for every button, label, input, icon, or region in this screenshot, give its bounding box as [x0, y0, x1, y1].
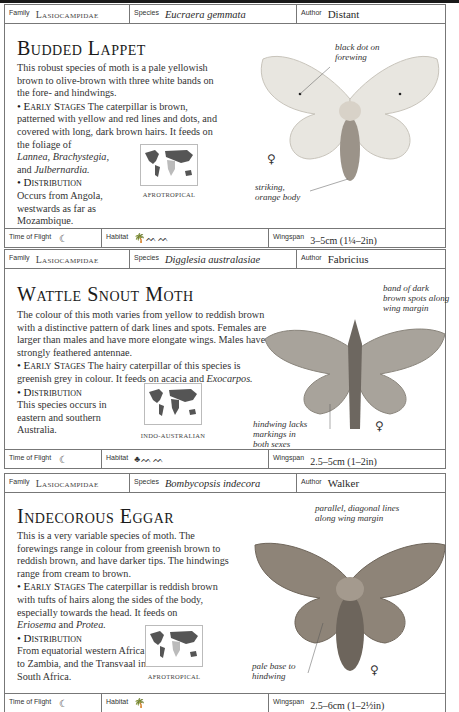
world-map-icon — [145, 384, 201, 424]
entry-body: Indecorous Eggar This is a very variable… — [4, 493, 446, 693]
annotation-black-dot: black dot on forewing — [335, 42, 405, 62]
annotation-band-dark-spots: band of dark brown spots along wing marg… — [383, 283, 453, 313]
species-title: Indecorous Eggar — [17, 505, 174, 528]
species-label: Species — [134, 9, 159, 16]
palm-tree-icon: 🌴 — [134, 233, 146, 243]
entry-header: Family Lasiocampidae Species Digglesia a… — [4, 249, 446, 269]
author-cell: Author Walker — [297, 474, 445, 492]
world-map-icon — [141, 145, 197, 185]
entry-footer: Time of Flight ☾ Habitat 🌴 ᨓᨓ Wingspan 3… — [4, 228, 446, 248]
time-of-flight-cell: Time of Flight ☾ — [5, 694, 102, 712]
annotation-parallel-lines: parallel, diagonal lines along wing marg… — [315, 503, 400, 523]
family-cell: Family Lasiocampidae — [5, 474, 130, 492]
species-title: Wattle Snout Moth — [17, 283, 194, 306]
description-text: The colour of this moth varies from yell… — [17, 309, 267, 437]
region-caption: AFROTROPICAL — [129, 191, 209, 198]
annotation-hindwing-lacks-markings: hindwing lacks markings in both sexes — [253, 419, 313, 449]
wingspan-cell: Wingspan 2.5–5cm (1–2in) — [269, 450, 445, 468]
entry-footer: Time of Flight ☾ Habitat ♣ ᨓᨓ Wingspan 2… — [4, 449, 446, 469]
family-label: Family — [9, 9, 30, 16]
palm-tree-icon: 🌴 — [134, 698, 146, 708]
description-text: This is a very variable species of moth.… — [17, 530, 237, 683]
intro-text: The colour of this moth varies from yell… — [17, 309, 266, 358]
distribution-heading: • Distribution — [17, 386, 82, 398]
species-value: Eucraera gemmata — [165, 9, 246, 20]
distribution-heading: • Distribution — [17, 176, 82, 188]
intro-text: This is a very variable species of moth.… — [17, 530, 229, 579]
species-entry-wattle-snout-moth: Family Lasiocampidae Species Digglesia a… — [4, 249, 446, 469]
grassland-icon: ᨓᨓ — [141, 454, 165, 465]
female-symbol: ♀ — [267, 152, 276, 166]
species-value: Digglesia australasiae — [165, 254, 260, 265]
wingspan-cell: Wingspan 2.5–6cm (1–2½in) — [269, 694, 445, 712]
distribution-text: Occurs from Angola, westwards as far as … — [17, 190, 107, 228]
world-map-icon — [146, 626, 202, 666]
time-of-flight-cell: Time of Flight ☾ — [5, 450, 102, 468]
distribution-heading: • Distribution — [17, 632, 82, 644]
family-cell: Family Lasiocampidae — [5, 250, 130, 268]
habitat-cell: Habitat ♣ ᨓᨓ — [102, 450, 269, 468]
author-value: Walker — [328, 477, 360, 489]
distribution-text: From equatorial western Africa to Zambia… — [17, 645, 147, 683]
world-map-indo-australian — [144, 383, 202, 425]
crescent-moon-icon: ☾ — [59, 454, 68, 465]
species-title: Budded Lappet — [17, 37, 146, 60]
entry-header: Family Lasiocampidae Species Bombycopsis… — [4, 473, 446, 493]
author-value: Fabricius — [328, 253, 369, 265]
wingspan-value: 3–5cm (1¼–2in) — [310, 235, 377, 246]
region-caption: INDO-AUSTRALIAN — [133, 432, 213, 439]
entry-body: Budded Lappet This robust species of mot… — [4, 24, 446, 228]
habitat-cell: Habitat 🌴 — [102, 694, 269, 712]
family-value: Lasiocampidae — [36, 9, 99, 20]
distribution-text: This species occurs in eastern and south… — [17, 399, 107, 437]
family-value: Lasiocampidae — [36, 254, 99, 265]
page-top-rule — [0, 0, 459, 3]
world-map-afrotropical — [140, 144, 198, 186]
species-cell: Species Bombycopsis indecora — [130, 474, 297, 492]
author-cell: Author Fabricius — [297, 250, 445, 268]
early-stages-heading: • Early Stages — [17, 580, 85, 592]
food-plants: Exocarpos. — [207, 373, 253, 384]
annotation-pale-base: pale base to hindwing — [252, 661, 307, 681]
entry-header: Family Lasiocampidae Species Eucraera ge… — [4, 4, 446, 24]
wingspan-value: 2.5–6cm (1–2½in) — [310, 700, 384, 711]
wingspan-value: 2.5–5cm (1–2in) — [310, 456, 377, 467]
entry-footer: Time of Flight ☾ Habitat 🌴 Wingspan 2.5–… — [4, 693, 446, 712]
female-symbol: ♀ — [375, 419, 384, 433]
early-stages-heading: • Early Stages — [17, 359, 85, 371]
early-stages-heading: • Early Stages — [17, 100, 85, 112]
food-plants: Lannea, Brachystegia, — [17, 151, 109, 162]
female-symbol: ♀ — [370, 663, 379, 677]
entry-body: Wattle Snout Moth The colour of this mot… — [4, 269, 446, 449]
author-label: Author — [301, 9, 322, 16]
crescent-moon-icon: ☾ — [59, 698, 68, 709]
species-entry-budded-lappet: Family Lasiocampidae Species Eucraera ge… — [4, 4, 446, 248]
species-entry-indecorous-eggar: Family Lasiocampidae Species Bombycopsis… — [4, 473, 446, 712]
wingspan-cell: Wingspan 3–5cm (1¼–2in) — [269, 229, 445, 247]
time-of-flight-cell: Time of Flight ☾ — [5, 229, 102, 247]
food-plants: Eriosema — [17, 619, 56, 630]
region-caption: AFROTROPICAL — [134, 673, 214, 680]
author-cell: Author Distant — [297, 5, 445, 23]
grassland-icon: ᨓᨓ — [146, 233, 170, 244]
intro-text: This robust species of moth is a pale ye… — [17, 62, 214, 98]
species-cell: Species Digglesia australasiae — [130, 250, 297, 268]
species-value: Bombycopsis indecora — [165, 478, 260, 489]
broadleaf-tree-icon: ♣ — [134, 454, 141, 464]
annotation-orange-body: striking, orange body — [255, 182, 310, 202]
family-value: Lasiocampidae — [36, 478, 99, 489]
crescent-moon-icon: ☾ — [59, 233, 68, 244]
world-map-afrotropical — [145, 625, 203, 667]
habitat-cell: Habitat 🌴 ᨓᨓ — [102, 229, 269, 247]
family-cell: Family Lasiocampidae — [5, 5, 130, 23]
author-value: Distant — [328, 8, 360, 20]
species-cell: Species Eucraera gemmata — [130, 5, 297, 23]
